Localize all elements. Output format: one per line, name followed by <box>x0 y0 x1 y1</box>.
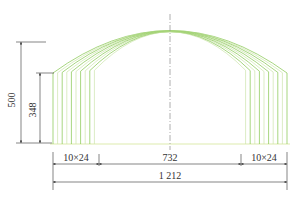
center-span-label: 732 <box>163 152 178 163</box>
dimension-shoulder-height: 348 <box>27 73 54 143</box>
greenhouse-arch-diagram: 500 348 10×24 732 10×24 1 212 <box>0 0 296 201</box>
total-height-label: 500 <box>6 93 17 108</box>
total-width-label: 1 212 <box>159 170 182 181</box>
shoulder-height-label: 348 <box>27 103 38 118</box>
dimension-total-width: 1 212 <box>53 170 287 182</box>
left-bay-label: 10×24 <box>63 152 89 163</box>
right-bay-label: 10×24 <box>251 152 277 163</box>
dimension-right-bay: 10×24 <box>241 152 287 164</box>
dimension-total-height: 500 <box>6 42 52 143</box>
dimension-left-bay: 10×24 <box>53 152 99 164</box>
dimension-center-span: 732 <box>99 152 241 164</box>
